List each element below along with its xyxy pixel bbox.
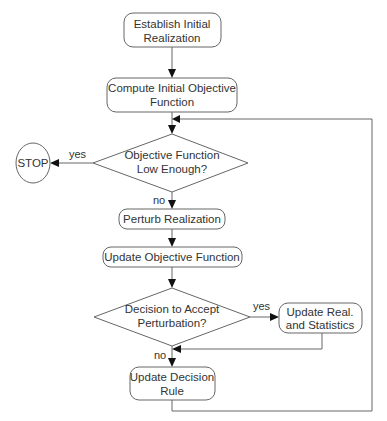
node-label: Update Objective Function — [104, 251, 240, 263]
arrow-icon — [168, 200, 176, 209]
arrow-icon — [172, 115, 180, 123]
node-label: Perturbation? — [137, 317, 206, 329]
node-label: Realization — [144, 32, 201, 44]
node-label: Low Enough? — [137, 163, 207, 175]
node-update-objective-function: Update Objective Function — [103, 247, 242, 267]
node-establish-initial-realization: Establish Initial Realization — [124, 13, 221, 47]
node-label: Establish Initial — [134, 18, 211, 30]
edge-label-yes: yes — [69, 148, 87, 160]
edge-label-no: no — [153, 194, 165, 206]
decision-accept-perturbation: Decision to Accept Perturbation? — [94, 288, 250, 346]
node-stop: STOP — [16, 143, 50, 183]
node-update-decision-rule: Update Decision Rule — [130, 367, 215, 400]
arrow-icon — [168, 125, 176, 134]
flowchart: Establish Initial Realization Compute In… — [0, 0, 387, 421]
node-label: Function — [150, 96, 194, 108]
arrow-icon — [168, 238, 176, 247]
node-label: Rule — [160, 385, 184, 397]
node-label: Compute Initial Objective — [108, 82, 236, 94]
node-label: and Statistics — [286, 319, 355, 331]
arrow-icon — [50, 159, 59, 167]
node-compute-initial-objective: Compute Initial Objective Function — [107, 78, 237, 112]
arrow-icon — [168, 358, 176, 367]
node-label: Perturb Realization — [123, 213, 221, 225]
node-label: Objective Function — [124, 149, 219, 161]
edge-label-yes: yes — [253, 300, 271, 312]
arrow-icon — [270, 313, 279, 321]
edge-label-no: no — [154, 349, 166, 361]
arrow-icon — [168, 279, 176, 288]
node-update-real-statistics: Update Real. and Statistics — [279, 303, 362, 333]
arrow-icon — [172, 345, 181, 353]
node-label: STOP — [17, 157, 48, 169]
node-perturb-realization: Perturb Realization — [119, 209, 225, 229]
node-label: Update Decision — [130, 371, 214, 383]
decision-objective-low-enough: Objective Function Low Enough? — [93, 134, 248, 192]
node-label: Update Real. — [286, 306, 353, 318]
node-label: Decision to Accept — [125, 303, 220, 315]
arrow-icon — [168, 69, 176, 78]
